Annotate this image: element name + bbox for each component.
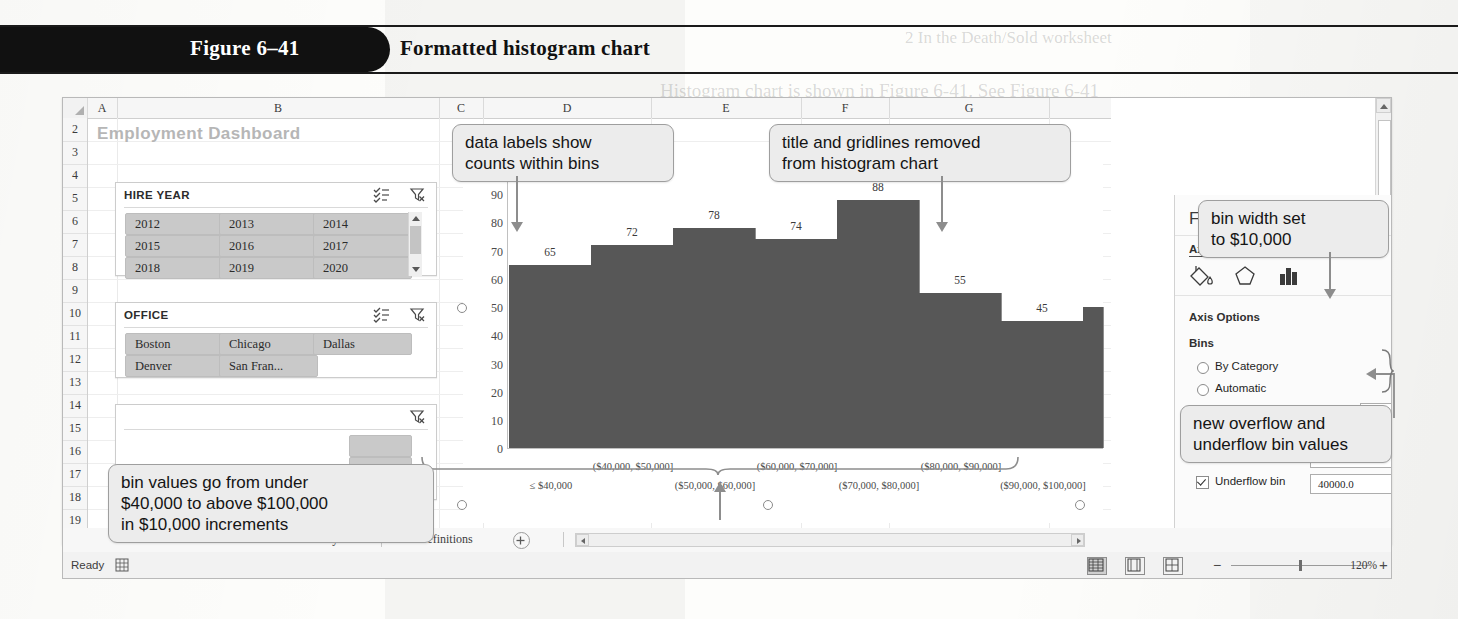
slicer-tile-2014[interactable]: 2014 [313,213,412,235]
axis-bars-icon[interactable] [1274,263,1304,289]
fill-bucket-icon[interactable] [1187,263,1217,289]
slicer-tile-2019[interactable]: 2019 [219,257,318,279]
bar-7[interactable] [1001,321,1084,448]
clear-filter-icon[interactable] [409,409,426,425]
scroll-up-button[interactable] [1376,98,1391,113]
zoom-in-button[interactable]: + [1379,556,1388,573]
slicer-tile-2012[interactable]: 2012 [125,213,224,235]
row-header[interactable]: 5 [63,187,87,211]
effects-pentagon-icon[interactable] [1230,263,1260,289]
clear-filter-icon[interactable] [409,187,426,203]
y-tick-30: 30 [463,358,503,373]
chart-handle-mid-left[interactable] [457,303,467,313]
row-header[interactable]: 13 [63,371,87,395]
page-break-icon[interactable] [1163,557,1183,575]
row-header[interactable]: 2 [63,118,87,142]
add-sheet-icon[interactable] [513,532,530,549]
clear-filter-icon[interactable] [409,307,426,323]
bar-3[interactable] [673,228,756,448]
slicer-tile-chicago[interactable]: Chicago [219,333,318,355]
row-header[interactable]: 17 [63,463,87,487]
column-header-A[interactable]: A [87,98,118,118]
slicer-tile-denver[interactable]: Denver [125,355,224,377]
label-by-category[interactable]: By Category [1215,360,1278,372]
row-header[interactable]: 8 [63,256,87,280]
scroll-right-button[interactable] [1071,534,1084,546]
arrow-line-bin-width [1329,252,1331,291]
row-header[interactable]: 9 [63,279,87,303]
label-automatic[interactable]: Automatic [1215,382,1266,394]
page-layout-icon[interactable] [1125,557,1145,575]
slicer-tile-2013[interactable]: 2013 [219,213,318,235]
chart-handle-bottom-right[interactable] [1075,500,1085,510]
slicer-scrollbar-hire-year[interactable] [408,212,422,276]
slicer-tile-2017[interactable]: 2017 [313,235,412,257]
callout-line-1: title and gridlines removed [782,132,1058,153]
row-header[interactable]: 14 [63,394,87,418]
slicer-tile-boston[interactable]: Boston [125,333,224,355]
row-header[interactable]: 6 [63,210,87,234]
callout-bin-width: bin width set to $10,000 [1198,200,1389,258]
row-header[interactable]: 10 [63,302,87,326]
row-header[interactable]: 15 [63,417,87,441]
bar-8-clipped[interactable] [1083,307,1104,448]
slicer-tile-hidden-1[interactable] [349,435,412,457]
column-header-C[interactable]: C [439,98,484,118]
column-header-F[interactable]: F [801,98,890,118]
normal-view-icon[interactable] [1087,557,1107,575]
select-all-corner[interactable] [63,98,88,118]
worksheet-horizontal-scrollbar[interactable] [575,533,1085,547]
bar-2[interactable] [591,245,674,448]
radio-automatic[interactable] [1197,384,1209,396]
underflow-bin-input[interactable]: 40000.0 [1310,474,1392,494]
callout-line-1: data labels show [465,132,661,153]
checkbox-underflow-bin[interactable] [1196,476,1209,489]
accessibility-icon[interactable] [115,558,129,576]
column-header-G[interactable]: G [889,98,1050,118]
y-tick-90: 90 [463,188,503,203]
x-axis-brace [420,455,1020,477]
multi-select-icon[interactable] [373,307,390,323]
slicer-tile-dallas[interactable]: Dallas [313,333,412,355]
callout-data-labels: data labels show counts within bins [452,124,674,182]
zoom-out-button[interactable]: − [1213,557,1221,573]
row-header[interactable]: 7 [63,233,87,257]
scroll-down-icon[interactable] [412,267,420,272]
slicer-hire-year[interactable]: HIRE YEAR 2012 201 [115,182,437,276]
row-header[interactable]: 11 [63,325,87,349]
scroll-up-icon[interactable] [412,216,420,221]
radio-by-category[interactable] [1197,362,1209,374]
slicer-tile-2018[interactable]: 2018 [125,257,224,279]
bar-6[interactable] [919,293,1002,448]
scroll-left-button[interactable] [576,534,589,546]
slicer-office[interactable]: OFFICE Boston Chic [115,302,437,378]
data-label-5: 88 [837,181,919,193]
arrow-head-data-labels [511,222,523,232]
bar-5[interactable] [837,200,920,448]
row-header[interactable]: 16 [63,440,87,464]
chart-handle-bottom-center[interactable] [763,500,773,510]
slicer-tile-2016[interactable]: 2016 [219,235,318,257]
dashboard-title: Employment Dashboard [97,124,301,144]
column-header-B[interactable]: B [117,98,440,118]
row-header[interactable]: 3 [63,141,87,165]
zoom-slider-knob[interactable] [1299,560,1302,571]
multi-select-icon[interactable] [373,187,390,203]
chart-handle-bottom-left[interactable] [457,500,467,510]
column-header-D[interactable]: D [483,98,652,118]
y-axis-line [507,166,508,448]
callout-line-1: bin values go from under [121,472,421,493]
row-header[interactable]: 18 [63,486,87,510]
row-header[interactable]: 12 [63,348,87,372]
callout-title-gridlines: title and gridlines removed from histogr… [769,124,1071,182]
bar-4[interactable] [755,239,838,448]
bar-1[interactable] [509,265,592,448]
label-underflow-bin[interactable]: Underflow bin [1215,475,1285,487]
data-label-6: 55 [919,274,1001,286]
column-header-E[interactable]: E [651,98,802,118]
slicer-tile-san-fran[interactable]: San Fran... [219,355,318,377]
row-header[interactable]: 4 [63,164,87,188]
slicer-header-hire-year: HIRE YEAR [124,189,190,201]
slicer-tile-2020[interactable]: 2020 [313,257,412,279]
slicer-tile-2015[interactable]: 2015 [125,235,224,257]
